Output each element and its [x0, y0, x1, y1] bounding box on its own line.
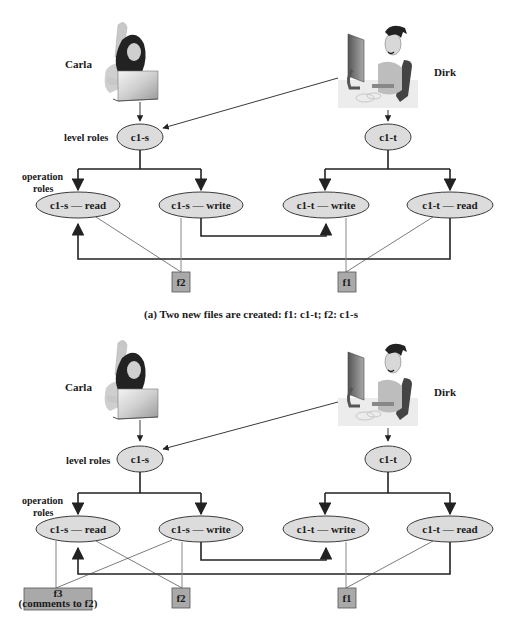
op-role-c1-s-write: c1-s — write [159, 516, 243, 542]
user-label-carla: Carla [65, 381, 92, 393]
op-role-c1-s-write: c1-s — write [159, 192, 243, 218]
level-role-c1-s: c1-s [117, 446, 163, 472]
op-role-c1-t-write: c1-t — write [283, 192, 369, 218]
svg-text:c1-t: c1-t [379, 453, 397, 465]
svg-text:f2: f2 [176, 276, 186, 288]
svg-text:f1: f1 [342, 276, 351, 288]
user-label-carla: Carla [65, 58, 92, 70]
file-f3: f3 (comments to f2) [19, 587, 98, 610]
op-role-c1-s-read: c1-s — read [36, 516, 120, 542]
panel-a: Carla Dirk level roles c1-s c1-t operati… [22, 22, 493, 321]
file-f1: f1 [338, 588, 356, 608]
role-diagram: Carla Dirk level roles c1-s c1-t operati… [0, 0, 509, 619]
svg-text:c1-s: c1-s [131, 131, 150, 143]
svg-text:c1-t — write: c1-t — write [297, 523, 356, 535]
op-role-c1-s-read: c1-s — read [36, 192, 120, 218]
svg-text:c1-t: c1-t [379, 131, 397, 143]
svg-text:c1-s — write: c1-s — write [171, 523, 230, 535]
dirk-figure-icon [338, 26, 418, 108]
svg-text:c1-t — read: c1-t — read [422, 523, 477, 535]
row-label-roles: roles [33, 183, 53, 194]
file-f2: f2 [172, 272, 190, 292]
user-label-dirk: Dirk [434, 386, 457, 398]
row-label-level-roles: level roles [66, 455, 110, 466]
svg-text:c1-t — write: c1-t — write [297, 199, 356, 211]
op-role-c1-t-write: c1-t — write [283, 516, 369, 542]
svg-text:f2: f2 [176, 592, 186, 604]
svg-text:c1-t — read: c1-t — read [422, 199, 477, 211]
svg-text:c1-s — read: c1-s — read [50, 523, 106, 535]
row-label-roles: roles [33, 507, 53, 518]
row-label-level-roles: level roles [64, 132, 108, 143]
file-f1: f1 [338, 272, 356, 292]
user-label-dirk: Dirk [434, 66, 457, 78]
dirk-figure-icon [338, 344, 418, 426]
file-f3-note: (comments to f2) [19, 597, 98, 610]
svg-text:c1-s: c1-s [131, 453, 150, 465]
row-label-operation: operation [22, 495, 64, 506]
file-f2: f2 [172, 588, 190, 608]
level-role-c1-t: c1-t [365, 446, 411, 472]
row-label-operation: operation [22, 171, 64, 182]
carla-figure-icon [105, 340, 158, 419]
svg-text:c1-s — read: c1-s — read [50, 199, 106, 211]
level-role-c1-t: c1-t [365, 124, 411, 150]
carla-figure-icon [105, 22, 158, 101]
svg-text:f1: f1 [342, 592, 351, 604]
level-role-c1-s: c1-s [117, 124, 163, 150]
op-role-c1-t-read: c1-t — read [407, 516, 493, 542]
op-role-c1-t-read: c1-t — read [407, 192, 493, 218]
panel-a-caption: (a) Two new files are created: f1: c1-t;… [144, 308, 359, 321]
panel-b: Carla Dirk level roles c1-s c1-t operati… [19, 340, 493, 610]
svg-text:c1-s — write: c1-s — write [171, 199, 230, 211]
